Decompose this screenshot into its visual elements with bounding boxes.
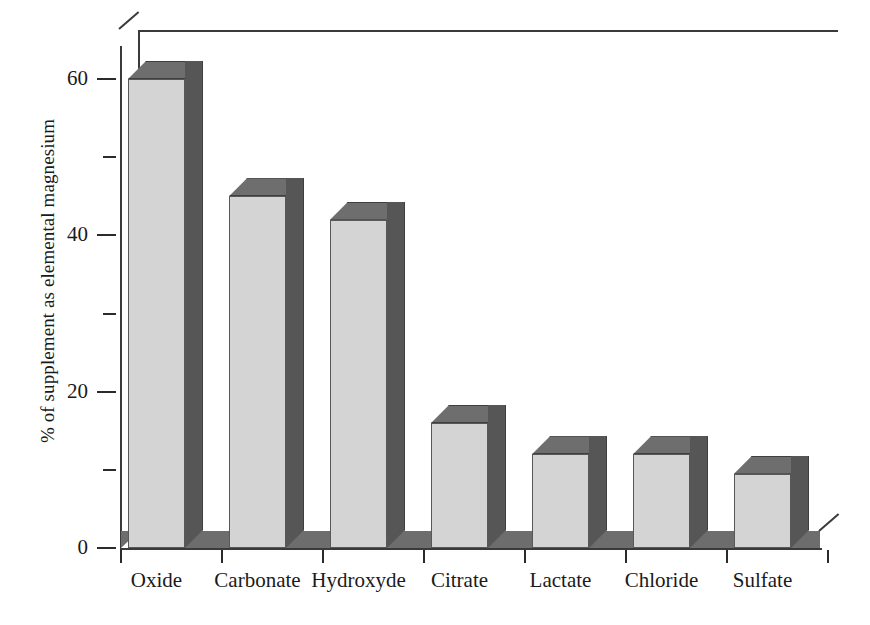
bar-front-face <box>128 79 185 548</box>
y-axis-tick-labels: 0204060 <box>48 0 88 625</box>
x-tick <box>221 550 223 563</box>
bar-front-face <box>734 474 791 548</box>
bar-front-face <box>229 196 286 548</box>
bar-side-face <box>690 436 708 548</box>
bar-front-face <box>330 220 387 548</box>
bar-side-face <box>286 178 304 548</box>
bar <box>229 178 304 548</box>
bar-front-face <box>633 454 690 548</box>
bar-front-face <box>431 423 488 548</box>
bar-side-face <box>791 456 809 548</box>
y-tick-major <box>97 78 116 80</box>
bar-chart: % of supplement as elemental magnesium 0… <box>0 0 870 625</box>
x-axis-line <box>120 548 822 550</box>
x-tick <box>322 550 324 563</box>
x-tick <box>524 550 526 563</box>
bar <box>532 436 607 548</box>
y-tick-major <box>97 391 116 393</box>
x-tick <box>423 550 425 563</box>
bar <box>330 202 405 548</box>
y-tick-label: 60 <box>48 68 88 89</box>
y-tick-label: 0 <box>48 537 88 558</box>
y-tick-major <box>97 547 116 549</box>
bar-side-face <box>488 405 506 548</box>
bar-side-face <box>387 202 405 548</box>
bar-front-face <box>532 454 589 548</box>
plot-depth-edge-top <box>118 11 139 30</box>
y-tick-label: 20 <box>48 381 88 402</box>
y-tick-major <box>97 234 116 236</box>
x-tick <box>625 550 627 563</box>
bar <box>128 61 203 548</box>
y-axis-line <box>120 46 122 549</box>
bar <box>734 456 809 548</box>
x-tick <box>726 550 728 563</box>
bar-side-face <box>185 61 203 548</box>
x-tick <box>120 550 122 563</box>
y-tick-label: 40 <box>48 224 88 245</box>
bar <box>431 405 506 548</box>
y-tick-minor <box>103 156 116 158</box>
x-axis-label: Sulfate <box>703 568 823 593</box>
bar-side-face <box>589 436 607 548</box>
bar <box>633 436 708 548</box>
y-tick-minor <box>103 469 116 471</box>
y-tick-minor <box>103 313 116 315</box>
x-tick <box>827 550 829 563</box>
